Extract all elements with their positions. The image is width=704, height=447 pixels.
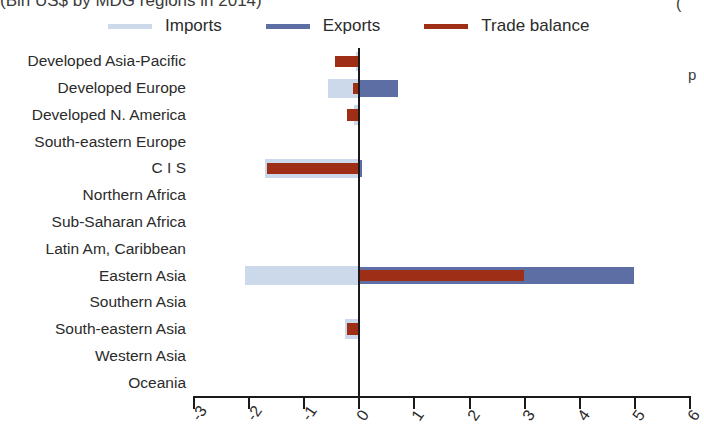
- legend-item-imports[interactable]: Imports: [108, 16, 222, 36]
- y-axis-label: South-eastern Asia: [0, 321, 186, 337]
- legend-swatch-trade-balance: [424, 24, 468, 29]
- x-axis-tick-label: 5: [629, 407, 649, 425]
- legend-swatch-imports: [108, 24, 152, 29]
- bar-row: [193, 371, 689, 394]
- bar-row: [193, 157, 689, 180]
- plot-area: [193, 48, 689, 396]
- bar-imports: [245, 266, 358, 285]
- legend-item-trade-balance[interactable]: Trade balance: [424, 16, 589, 36]
- x-axis-tick-label: -3: [188, 402, 211, 424]
- bar-balance: [358, 270, 523, 281]
- y-axis-label: Northern Africa: [0, 187, 186, 203]
- y-axis-label: Developed N. America: [0, 107, 186, 123]
- bar-balance: [347, 323, 358, 334]
- y-axis-label: C I S: [0, 160, 186, 176]
- bar-exports: [358, 80, 398, 97]
- legend-label-imports: Imports: [165, 16, 222, 36]
- x-axis-tick-label: 4: [574, 407, 594, 425]
- bar-row: [193, 291, 689, 314]
- y-axis-label: South-eastern Europe: [0, 134, 186, 150]
- x-axis-tick-label: 0: [353, 407, 373, 425]
- bar-rows: [193, 48, 689, 396]
- y-axis-label: Developed Asia-Pacific: [0, 53, 186, 69]
- bar-balance: [335, 56, 358, 67]
- y-axis-label: Sub-Saharan Africa: [0, 214, 186, 230]
- x-axis-tick-label: -2: [243, 402, 266, 424]
- bar-row: [193, 237, 689, 260]
- clipped-text-top-right: (: [676, 0, 699, 13]
- y-axis-label: Developed Europe: [0, 80, 186, 96]
- bar-row: [193, 103, 689, 126]
- x-axis-tick-label: 2: [464, 407, 484, 425]
- y-axis-label: Oceania: [0, 375, 186, 391]
- bar-row: [193, 130, 689, 153]
- clipped-text-right: p: [688, 66, 699, 83]
- legend-label-trade-balance: Trade balance: [481, 16, 589, 36]
- bar-row: [193, 344, 689, 367]
- bar-row: [193, 210, 689, 233]
- y-axis-label: Latin Am, Caribbean: [0, 241, 186, 257]
- bar-row: [193, 264, 689, 287]
- bar-row: [193, 317, 689, 340]
- bar-row: [193, 77, 689, 100]
- chart-title: (Bln US$ by MDG regions in 2014): [0, 0, 340, 11]
- legend-label-exports: Exports: [323, 16, 381, 36]
- legend-item-exports[interactable]: Exports: [266, 16, 381, 36]
- bar-balance: [347, 109, 358, 120]
- chart-legend: Imports Exports Trade balance: [108, 14, 633, 38]
- zero-axis-line: [358, 48, 360, 402]
- x-axis-line: [193, 396, 689, 398]
- bar-balance: [267, 163, 358, 174]
- x-axis-tick-label: 1: [408, 407, 428, 425]
- legend-swatch-exports: [266, 24, 310, 29]
- bar-row: [193, 50, 689, 73]
- y-axis-category-labels: Developed Asia-PacificDeveloped EuropeDe…: [0, 48, 186, 396]
- bar-row: [193, 184, 689, 207]
- y-axis-label: Eastern Asia: [0, 268, 186, 284]
- y-axis-label: Southern Asia: [0, 294, 186, 310]
- x-axis-tick-label: 3: [519, 407, 539, 425]
- x-axis-tick-label: 6: [684, 407, 704, 425]
- x-axis-tick-label: -1: [298, 402, 321, 424]
- y-axis-label: Western Asia: [0, 348, 186, 364]
